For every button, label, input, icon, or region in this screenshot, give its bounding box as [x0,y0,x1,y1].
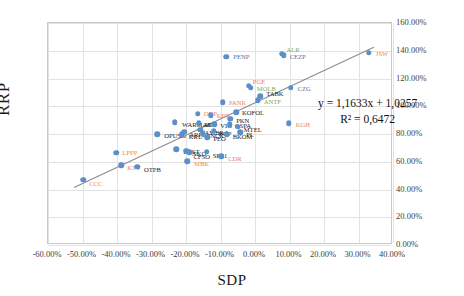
gridline-vertical [393,23,394,243]
y-tick-label: 20.00% [396,211,422,221]
data-point[interactable] [174,147,180,153]
data-point[interactable] [227,121,233,127]
gridline-vertical [83,23,84,243]
x-tick-label: -10.00% [205,249,234,259]
y-tick-label: 40.00% [396,184,422,194]
gridline-horizontal [48,162,391,163]
data-point-label: PANK [229,100,246,107]
gridline-horizontal [48,51,391,52]
gridline-vertical [152,23,153,243]
plot-area: CCCLPPPKTYOTPBOPUSGWARMAKKRUEBSTARPLNKOC… [47,22,392,244]
data-point-label: PENP [233,54,249,61]
data-point-label: KOFOL [242,110,264,117]
data-point-label: ANTF [264,99,281,106]
data-point[interactable] [257,94,263,100]
data-point[interactable] [237,130,243,136]
y-tick-label: 160.00% [396,17,426,27]
data-point[interactable] [184,159,190,165]
data-point-label: JSW [376,51,388,58]
x-tick-label: -20.00% [170,249,199,259]
x-tick-label: -50.00% [67,249,96,259]
data-point-label: MBK [194,161,209,168]
data-point[interactable] [366,50,372,56]
data-point[interactable] [196,120,202,126]
data-point[interactable] [182,129,188,135]
y-tick-label: 120.00% [396,73,426,83]
data-point[interactable] [227,116,233,122]
gridline-vertical [359,23,360,243]
x-tick-label: -30.00% [136,249,165,259]
x-tick-label: 20.00% [310,249,336,259]
data-point-label: CEZP [290,54,306,61]
data-point[interactable] [187,150,193,156]
data-point[interactable] [248,85,254,91]
data-point[interactable] [211,128,217,134]
y-tick-label: 60.00% [396,156,422,166]
data-point[interactable] [208,113,214,119]
x-axis-title: SDP [0,272,464,289]
y-tick-label: 140.00% [396,45,426,55]
data-point[interactable] [224,54,230,60]
data-point-label: KGH [296,122,310,129]
data-point-label: TABK [266,91,283,98]
y-tick-label: 80.00% [396,128,422,138]
x-tick-label: 30.00% [344,249,370,259]
gridline-horizontal [48,23,391,24]
data-point-label: OTPB [144,166,161,173]
data-point-label: CCC [89,180,102,187]
gridline-horizontal [48,190,391,191]
data-point[interactable] [118,162,124,168]
data-point[interactable] [233,110,239,116]
data-point[interactable] [155,131,161,137]
data-point-label: PL [246,132,254,139]
data-point[interactable] [212,121,218,127]
scatter-chart: CCCLPPPKTYOTPBOPUSGWARMAKKRUEBSTARPLNKOC… [0,0,464,296]
gridline-vertical [48,23,49,243]
data-point-label: LPPP [122,149,137,156]
data-point-label: CDR [228,156,242,163]
x-tick-label: 0.00% [243,249,265,259]
trendline-equation: y = 1,1633x + 1,0257 R² = 0,6472 [318,96,417,127]
x-tick-label: -60.00% [32,249,61,259]
gridline-horizontal [48,217,391,218]
data-point-label: CZG [298,85,311,92]
data-point[interactable] [220,99,226,105]
data-point[interactable] [172,119,178,125]
x-tick-label: -40.00% [101,249,130,259]
data-point[interactable] [114,150,120,156]
data-point[interactable] [288,85,294,91]
gridline-horizontal [48,79,391,80]
y-axis-title: RRP [0,82,14,116]
data-point[interactable] [80,177,86,183]
y-tick-label: 0.00% [396,239,418,249]
equation-line: y = 1,1633x + 1,0257 [318,97,417,109]
gridline-vertical [117,23,118,243]
gridline-vertical [324,23,325,243]
x-tick-label: 10.00% [275,249,301,259]
gridline-horizontal [48,245,391,246]
data-point[interactable] [218,153,224,159]
data-point[interactable] [204,149,210,155]
data-point[interactable] [224,131,230,137]
data-point-label: PKN [236,117,249,124]
x-tick-label: 40.00% [379,249,405,259]
data-point[interactable] [195,111,201,117]
r-squared-line: R² = 0,6472 [318,112,417,128]
data-point[interactable] [281,52,287,58]
data-point[interactable] [134,164,140,170]
data-point[interactable] [205,135,211,141]
data-point[interactable] [286,120,292,126]
